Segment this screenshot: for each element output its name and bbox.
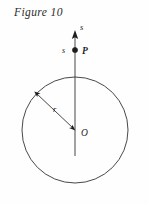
geometry-diagram: s s P r O xyxy=(0,0,149,204)
point-p-label: P xyxy=(82,46,88,56)
distance-label: s xyxy=(62,46,65,55)
center-o-label: O xyxy=(81,128,88,138)
point-p-marker xyxy=(72,47,77,52)
figure-container: Figure 10 s s P r O xyxy=(0,0,149,204)
axis-top-label: s xyxy=(80,22,84,32)
